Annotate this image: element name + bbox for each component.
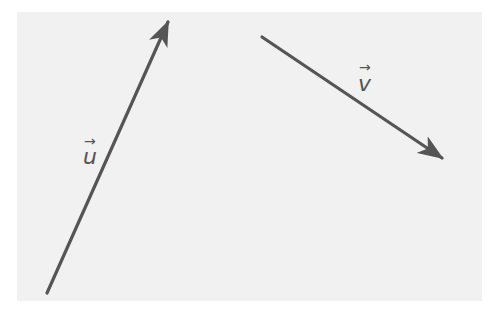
vector-u-line	[47, 22, 168, 293]
vector-u-label: u	[83, 144, 97, 169]
vector-v-line	[262, 37, 442, 158]
diagram-canvas: → u → v	[0, 0, 488, 315]
vector-u: → u	[47, 22, 168, 293]
vector-v: → v	[262, 37, 442, 158]
vector-diagram: → u → v	[0, 0, 488, 315]
vector-v-label: v	[358, 71, 372, 96]
